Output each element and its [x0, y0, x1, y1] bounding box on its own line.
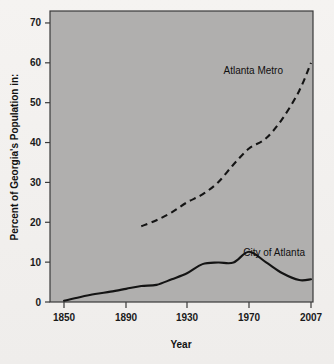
- x-axis-title: Year: [170, 339, 191, 350]
- x-axis-tick-label: 1970: [238, 312, 261, 323]
- chart-figure: 010203040506070 18501890193019702007 Atl…: [0, 0, 334, 364]
- y-axis-tick-label: 40: [30, 137, 42, 148]
- x-axis-tick-label: 1930: [176, 312, 199, 323]
- series-annotation-city-of-atlanta: City of Atlanta: [243, 247, 305, 258]
- y-axis-tick-label: 60: [30, 57, 42, 68]
- y-axis-tick-label: 30: [30, 177, 42, 188]
- y-axis-ticks: 010203040506070: [30, 17, 50, 307]
- x-axis-tick-label: 1890: [115, 312, 138, 323]
- series-annotation-atlanta-metro: Atlanta Metro: [224, 65, 284, 76]
- y-axis-title: Percent of Georgia's Population in:: [9, 74, 20, 241]
- x-axis-tick-label: 2007: [300, 312, 323, 323]
- x-axis-tick-label: 1850: [53, 312, 76, 323]
- y-axis-tick-label: 50: [30, 97, 42, 108]
- y-axis-tick-label: 20: [30, 217, 42, 228]
- y-axis-tick-label: 70: [30, 17, 42, 28]
- y-axis-tick-label: 0: [35, 297, 41, 308]
- population-line-chart: 010203040506070 18501890193019702007 Atl…: [0, 0, 334, 364]
- x-axis-ticks: 18501890193019702007: [53, 302, 323, 323]
- y-axis-tick-label: 10: [30, 257, 42, 268]
- plot-area-background: [50, 11, 313, 302]
